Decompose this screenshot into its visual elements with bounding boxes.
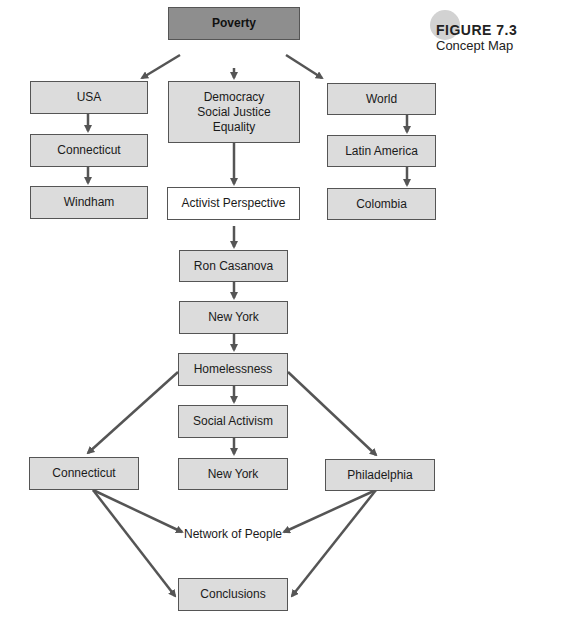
- node-ron-casanova: Ron Casanova: [179, 250, 288, 282]
- node-connecticut-top: Connecticut: [30, 134, 148, 167]
- node-label: Social Activism: [193, 414, 273, 429]
- node-label: Social Justice: [197, 105, 270, 120]
- node-label: World: [366, 92, 397, 107]
- node-label: Philadelphia: [347, 468, 412, 483]
- node-label: Connecticut: [52, 466, 115, 481]
- node-windham: Windham: [30, 186, 148, 219]
- node-values: Democracy Social Justice Equality: [168, 81, 300, 143]
- node-label: New York: [208, 467, 259, 482]
- node-label: Homelessness: [194, 362, 273, 377]
- node-poverty: Poverty: [168, 7, 300, 40]
- node-new-york-2: New York: [178, 458, 288, 490]
- node-social-activism: Social Activism: [178, 405, 288, 438]
- node-label: Conclusions: [200, 587, 265, 602]
- node-label: Activist Perspective: [181, 196, 285, 211]
- node-new-york-1: New York: [179, 301, 288, 334]
- node-activist-perspective: Activist Perspective: [167, 187, 300, 220]
- node-colombia: Colombia: [327, 188, 436, 220]
- node-conclusions: Conclusions: [178, 578, 288, 611]
- node-label: Network of People: [184, 527, 282, 542]
- node-label: USA: [77, 90, 102, 105]
- node-label: Democracy: [204, 90, 265, 105]
- node-label: Poverty: [212, 16, 256, 31]
- node-network-of-people: Network of People: [182, 524, 284, 544]
- node-label: Colombia: [356, 197, 407, 212]
- node-label: Equality: [213, 120, 256, 135]
- node-label: Windham: [64, 195, 115, 210]
- node-world: World: [327, 83, 436, 115]
- node-usa: USA: [30, 81, 148, 114]
- node-homelessness: Homelessness: [178, 353, 288, 386]
- node-label: Latin America: [345, 144, 418, 159]
- node-label: Connecticut: [57, 143, 120, 158]
- node-latin-america: Latin America: [327, 135, 436, 167]
- node-philadelphia: Philadelphia: [325, 459, 435, 491]
- node-label: New York: [208, 310, 259, 325]
- node-label: Ron Casanova: [194, 259, 273, 274]
- node-connecticut-bottom: Connecticut: [29, 457, 139, 490]
